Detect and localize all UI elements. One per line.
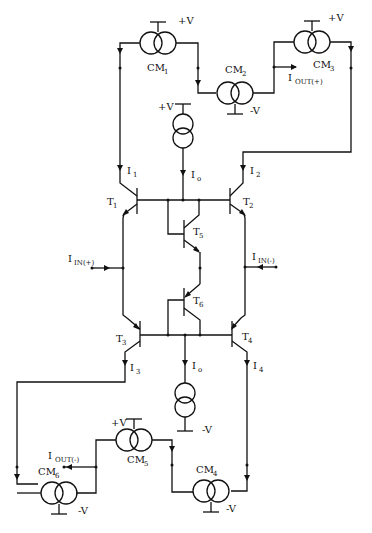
svg-text:o: o <box>197 175 201 183</box>
svg-text:1: 1 <box>133 171 137 179</box>
svg-text:2: 2 <box>256 171 260 179</box>
svg-text:OUT(+): OUT(+) <box>295 78 323 86</box>
svg-text:-V: -V <box>78 505 89 516</box>
arrow-icon <box>117 48 123 54</box>
transistor-t4: T 4 <box>231 318 253 362</box>
arrow-icon <box>244 360 250 366</box>
svg-text:I: I <box>130 362 134 373</box>
current-label-i2: I 2 <box>250 165 260 179</box>
current-source-io-top: +V I o <box>158 101 201 200</box>
svg-text:-V: -V <box>202 424 213 435</box>
svg-text:+V: +V <box>111 417 127 428</box>
arrow-icon <box>182 360 188 366</box>
current-mirror-cm2: -V CM 2 <box>217 64 261 116</box>
svg-text:3: 3 <box>136 368 140 376</box>
current-label-i4: I 4 <box>253 360 264 374</box>
current-label-i3: I 3 <box>130 362 140 376</box>
transistor-t2: T 2 <box>230 172 253 216</box>
current-mirror-cm5: +V CM 5 <box>111 417 152 468</box>
svg-text:2: 2 <box>249 202 253 210</box>
svg-text:I: I <box>250 165 254 176</box>
svg-text:OUT(-): OUT(-) <box>55 456 79 464</box>
svg-text:CM: CM <box>225 64 243 75</box>
arrow-icon <box>348 46 354 52</box>
terminal-iout-plus: I OUT(+) <box>288 72 323 86</box>
current-mirror-cm4: -V CM 4 <box>193 464 237 514</box>
terminal-iin-minus[interactable]: I IN(-) <box>244 251 278 270</box>
svg-text:o: o <box>198 366 202 374</box>
svg-text:I: I <box>68 253 72 264</box>
supply-label: +V <box>178 15 194 26</box>
svg-text:I: I <box>127 165 131 176</box>
arrow-icon <box>291 64 297 70</box>
arrow-icon <box>180 170 186 176</box>
svg-text:3: 3 <box>122 339 126 347</box>
svg-text:5: 5 <box>199 232 203 240</box>
svg-text:IN(+): IN(+) <box>74 259 94 267</box>
svg-text:I: I <box>48 450 52 461</box>
svg-text:CM: CM <box>196 464 214 475</box>
arrow-icon <box>169 446 175 452</box>
svg-text:+V: +V <box>158 101 174 112</box>
svg-text:4: 4 <box>213 470 218 478</box>
current-mirror-cm1: +V CM 1 <box>140 15 194 76</box>
svg-text:I: I <box>192 360 196 371</box>
terminal-iin-plus[interactable]: I IN(+) <box>68 253 125 271</box>
svg-text:I: I <box>191 169 195 180</box>
svg-text:6: 6 <box>55 472 60 480</box>
arrow-icon <box>195 80 201 86</box>
transistor-t3: T 3 <box>116 318 140 362</box>
arrow-icon <box>122 360 128 366</box>
svg-text:-V: -V <box>226 503 237 514</box>
transistor-t6: T 6 <box>168 284 204 335</box>
svg-text:2: 2 <box>242 70 246 78</box>
svg-text:I: I <box>253 360 257 371</box>
svg-text:1: 1 <box>164 68 168 76</box>
svg-text:CM: CM <box>147 62 165 73</box>
svg-text:I: I <box>252 251 256 262</box>
transistor-t5: T 5 <box>168 200 203 284</box>
svg-text:4: 4 <box>259 366 264 374</box>
svg-text:CM: CM <box>127 454 145 465</box>
svg-text:4: 4 <box>248 337 253 345</box>
svg-text:3: 3 <box>330 65 334 73</box>
svg-text:CM: CM <box>38 466 56 477</box>
svg-text:CM: CM <box>313 59 331 70</box>
svg-text:I: I <box>288 72 292 83</box>
circuit-diagram: +V CM 1 -V CM 2 I OUT(+) +V CM 3 <box>0 0 372 533</box>
arrow-icon <box>240 165 246 171</box>
svg-text:1: 1 <box>113 202 117 210</box>
arrow-icon <box>117 165 123 171</box>
svg-text:-V: -V <box>250 105 261 116</box>
svg-text:5: 5 <box>144 460 148 468</box>
current-mirror-cm6: -V CM 6 <box>38 466 89 516</box>
svg-text:+V: +V <box>328 12 344 23</box>
svg-text:IN(-): IN(-) <box>258 257 275 265</box>
current-source-io-bottom: I o -V <box>175 335 213 435</box>
svg-text:6: 6 <box>199 301 204 309</box>
